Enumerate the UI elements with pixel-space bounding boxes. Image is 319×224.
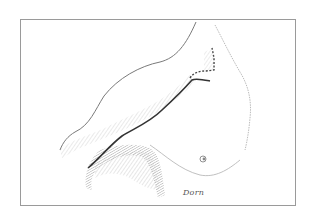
neck-outline — [215, 25, 251, 150]
chest-outline — [150, 145, 240, 176]
torso-illustration — [0, 0, 319, 224]
artist-signature: Dorn — [183, 188, 204, 197]
dashed-region-shading — [204, 48, 214, 70]
arm-outline — [60, 22, 196, 150]
nipple-mark — [200, 156, 206, 162]
